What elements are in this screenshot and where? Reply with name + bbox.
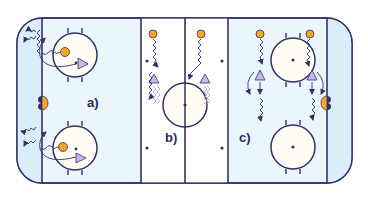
- player-orange: [306, 30, 314, 38]
- panel-label-a: a): [87, 95, 99, 110]
- player-orange: [59, 143, 68, 152]
- player-orange: [61, 48, 70, 57]
- player-orange: [256, 30, 264, 38]
- player-orange: [197, 30, 205, 38]
- faceoff-circle-center: [163, 83, 207, 127]
- player-orange: [149, 30, 157, 38]
- panel-label-c: c): [239, 130, 251, 145]
- panel-label-b: b): [165, 130, 177, 145]
- hockey-rink-diagram: [0, 0, 368, 201]
